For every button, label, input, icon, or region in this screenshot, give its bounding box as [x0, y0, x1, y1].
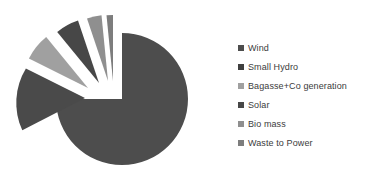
- chart-legend: Wind Small Hydro Bagasse+Co generation S…: [238, 38, 372, 152]
- legend-item-wind[interactable]: Wind: [238, 38, 372, 57]
- legend-swatch-icon: [238, 83, 244, 89]
- legend-item-small-hydro[interactable]: Small Hydro: [238, 57, 372, 76]
- legend-item-label: Bio mass: [248, 119, 286, 129]
- legend-item-label: Small Hydro: [248, 62, 298, 72]
- legend-item-solar[interactable]: Solar: [238, 95, 372, 114]
- legend-item-waste-to-power[interactable]: Waste to Power: [238, 133, 372, 152]
- pie-chart-plot-area: [4, 2, 209, 185]
- legend-item-bio-mass[interactable]: Bio mass: [238, 114, 372, 133]
- legend-swatch-icon: [238, 45, 244, 51]
- legend-item-bagasse-cogeneration[interactable]: Bagasse+Co generation: [238, 76, 372, 95]
- legend-item-label: Solar: [248, 100, 270, 110]
- legend-item-label: Wind: [248, 43, 269, 53]
- legend-swatch-icon: [238, 140, 244, 146]
- legend-swatch-icon: [238, 121, 244, 127]
- legend-item-label: Waste to Power: [248, 138, 313, 148]
- pie-slice-waste-to-power: [107, 15, 114, 81]
- legend-swatch-icon: [238, 102, 244, 108]
- legend-item-label: Bagasse+Co generation: [248, 81, 347, 91]
- pie-chart-figure: Wind Small Hydro Bagasse+Co generation S…: [0, 0, 372, 185]
- pie-chart-svg: [4, 2, 209, 185]
- legend-swatch-icon: [238, 64, 244, 70]
